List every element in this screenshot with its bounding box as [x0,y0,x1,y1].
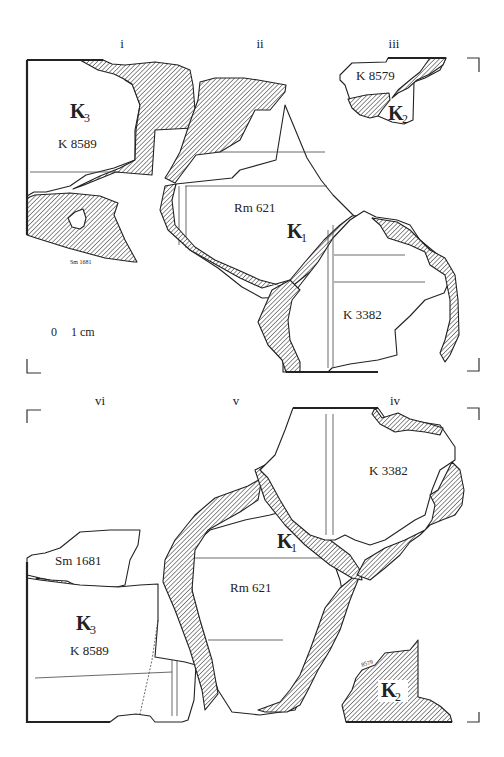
scale-unit-label: 1 cm [71,325,95,339]
number-sm1681-top: Sm 1681 [70,259,92,265]
panel-label-i: i [120,36,124,51]
number-sm1681-bottom: Sm 1681 [55,553,102,568]
crop-mark-top-right [467,58,479,72]
number-k8579-top: K 8579 [356,68,395,83]
crop-mark-top-right-bottom [467,408,479,420]
crop-mark-bottom-right-top [467,358,479,371]
number-k8589-top: K 8589 [58,136,97,151]
number-k3382-bottom: K 3382 [369,463,408,478]
crop-mark-bottom-right [467,712,479,722]
panel-label-iv: iv [390,393,401,408]
group-sub-k3-bottom: 3 [90,623,96,637]
number-k8589-bottom: K 8589 [70,643,109,658]
panel-label-ii: ii [256,36,264,51]
panel-label-v: v [233,393,240,408]
top-assembly [27,58,479,373]
group-sub-k1-top: 1 [301,231,307,245]
group-sub-k1-bottom: 1 [291,541,297,555]
number-k3382-top: K 3382 [343,307,382,322]
group-sub-k2-top: 2 [402,112,408,126]
panel-label-vi: vi [95,393,106,408]
crop-mark-top-left-bottom [27,410,41,423]
crop-mark-bottom-left-top [27,359,41,373]
number-rm621-bottom: Rm 621 [230,580,272,595]
fragment-k3-top [27,60,140,196]
group-sub-k2-bottom: 2 [395,690,401,704]
group-sub-k3-top: 3 [84,111,90,125]
scale-zero: 0 [51,325,57,339]
tablet-join-drawing: i ii iii vi v iv K 3 K 8589 Sm 1681 K 85… [0,0,504,757]
scale-bar: 0 1 cm [51,325,95,339]
number-rm621-top: Rm 621 [234,200,276,215]
panel-label-iii: iii [389,36,400,51]
